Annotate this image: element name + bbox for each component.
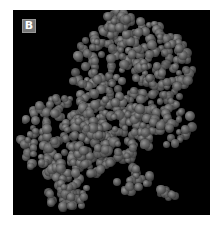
atom-sphere xyxy=(119,60,129,70)
atom-sphere xyxy=(165,42,172,49)
atom-sphere xyxy=(130,87,137,94)
atom-sphere xyxy=(181,125,190,134)
atom-sphere xyxy=(172,82,181,91)
atom-sphere xyxy=(145,50,154,59)
atom-sphere xyxy=(129,144,137,152)
atom-sphere xyxy=(119,53,126,60)
atom-sphere xyxy=(42,124,52,134)
atom-sphere xyxy=(148,90,157,99)
atom-sphere xyxy=(156,185,166,195)
atom-sphere xyxy=(69,77,77,85)
atom-sphere xyxy=(113,178,122,187)
atom-sphere xyxy=(98,51,105,58)
atom-sphere xyxy=(183,76,192,85)
atom-sphere xyxy=(158,69,166,77)
atom-sphere xyxy=(31,116,40,125)
atom-sphere xyxy=(115,23,124,32)
atom-sphere xyxy=(122,125,128,131)
atom-sphere xyxy=(143,180,149,186)
atom-sphere xyxy=(185,111,195,121)
panel-label: B xyxy=(22,19,36,33)
atom-sphere xyxy=(168,191,176,199)
atom-sphere xyxy=(123,15,131,23)
atom-sphere xyxy=(67,193,75,201)
atom-sphere xyxy=(50,109,59,118)
atom-sphere xyxy=(56,164,65,173)
atom-sphere xyxy=(125,182,134,191)
atom-sphere xyxy=(122,30,131,39)
atom-sphere xyxy=(80,193,88,201)
atom-sphere xyxy=(131,128,138,135)
atom-sphere xyxy=(35,101,44,110)
atom-sphere xyxy=(106,54,116,64)
atom-sphere xyxy=(145,171,154,180)
atom-sphere xyxy=(141,64,148,71)
atom-sphere xyxy=(171,139,180,148)
atom-sphere xyxy=(32,128,38,134)
atom-sphere xyxy=(30,151,36,157)
atom-sphere xyxy=(101,145,109,153)
atom-sphere xyxy=(90,89,99,98)
atom-sphere xyxy=(118,47,124,53)
atom-sphere xyxy=(77,42,84,49)
atom-sphere xyxy=(136,17,145,26)
atom-sphere xyxy=(50,137,58,145)
atom-sphere xyxy=(46,190,54,198)
atom-sphere xyxy=(93,75,102,84)
atom-sphere xyxy=(106,159,113,166)
atom-sphere xyxy=(27,163,34,170)
atom-sphere xyxy=(157,98,163,104)
atom-sphere xyxy=(83,185,89,191)
atom-sphere xyxy=(25,137,31,143)
atom-sphere xyxy=(172,63,179,70)
atom-sphere xyxy=(176,93,183,100)
atom-sphere xyxy=(141,128,150,137)
atom-sphere xyxy=(161,49,168,56)
atom-sphere xyxy=(90,100,99,109)
atom-sphere xyxy=(102,96,109,103)
atom-sphere xyxy=(89,44,95,50)
atom-sphere xyxy=(86,169,95,178)
atom-sphere xyxy=(73,51,83,61)
atom-sphere xyxy=(140,139,149,148)
atom-sphere xyxy=(176,116,182,122)
atom-sphere xyxy=(115,141,121,147)
atom-sphere xyxy=(149,127,156,134)
atom-sphere xyxy=(124,153,130,159)
atom-sphere xyxy=(135,104,145,114)
atom-sphere xyxy=(134,183,143,192)
atom-sphere xyxy=(133,75,140,82)
atom-sphere xyxy=(64,127,70,133)
atom-sphere xyxy=(96,165,105,174)
molecule-figure-panel: B xyxy=(13,10,210,215)
atom-sphere xyxy=(165,124,174,133)
atom-sphere xyxy=(163,78,171,86)
atom-sphere xyxy=(182,66,190,74)
atom-sphere xyxy=(81,62,90,71)
atom-sphere xyxy=(114,148,122,156)
atom-sphere xyxy=(134,28,143,37)
atom-sphere xyxy=(128,50,137,59)
atom-sphere xyxy=(111,114,117,120)
atom-sphere xyxy=(146,74,154,82)
atom-sphere xyxy=(118,77,125,84)
atom-sphere xyxy=(163,141,170,148)
atom-sphere xyxy=(71,168,80,177)
atom-sphere xyxy=(58,202,67,211)
atom-sphere xyxy=(22,115,30,123)
atom-sphere xyxy=(47,199,55,207)
